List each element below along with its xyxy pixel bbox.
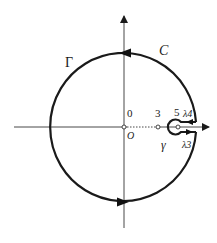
point-five: [176, 125, 180, 129]
origin-point: [122, 125, 126, 129]
bottom-arrow-icon: [117, 198, 129, 207]
top-arrow-icon: [119, 49, 131, 58]
lower-cut-arrow-icon: [186, 129, 193, 135]
label-lambda3: λ3: [181, 139, 191, 150]
contour-diagram: C Γ 0 O 3 5 γ λ4 λ3: [0, 0, 217, 243]
label-gamma-small: γ: [161, 138, 166, 152]
label-O: O: [127, 130, 134, 141]
point-three: [156, 125, 160, 129]
label-C: C: [159, 43, 169, 58]
upper-cut-arrow-icon: [186, 119, 193, 125]
label-lambda4: λ4: [182, 108, 192, 119]
label-zero: 0: [127, 107, 133, 119]
label-Gamma: Γ: [65, 55, 73, 70]
label-five: 5: [174, 106, 180, 118]
label-three: 3: [155, 107, 161, 119]
